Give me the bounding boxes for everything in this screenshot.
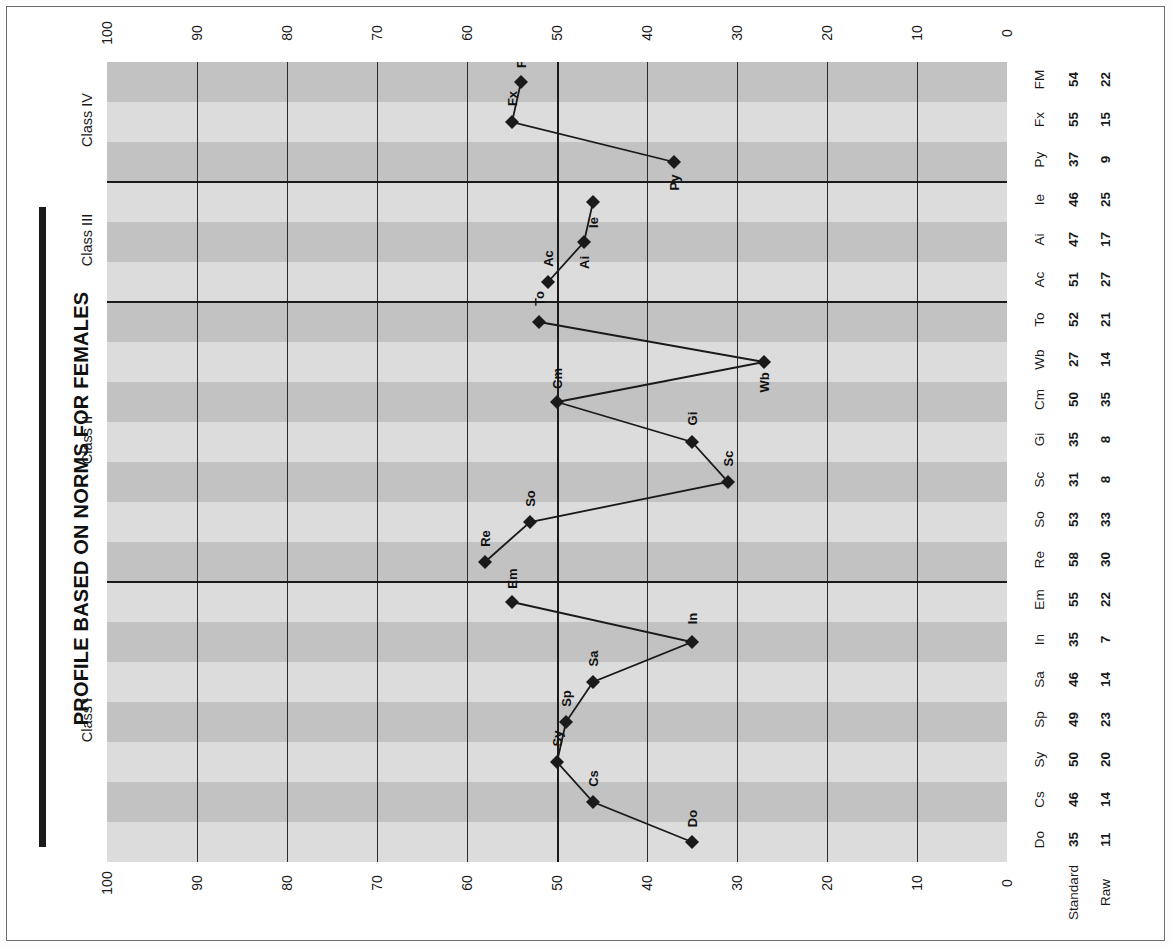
- point-label-So: So: [523, 479, 538, 519]
- scale-name-Fx: Fx: [1032, 100, 1047, 140]
- tick-10: 10: [909, 13, 925, 53]
- raw-score-Sp: 23: [1098, 700, 1113, 740]
- chart-frame: PROFILE BASED ON NORMS FOR FEMALES Class…: [6, 6, 1165, 941]
- scale-name-Ai: Ai: [1032, 220, 1047, 260]
- standard-score-Fx: 55: [1066, 100, 1081, 140]
- standard-score-To: 52: [1066, 300, 1081, 340]
- point-label-Cm: Cm: [550, 359, 565, 399]
- tick-60: 60: [459, 863, 475, 903]
- tick-50: 50: [549, 13, 565, 53]
- standard-score-In: 35: [1066, 620, 1081, 660]
- tick-30: 30: [729, 863, 745, 903]
- scale-name-Ac: Ac: [1032, 260, 1047, 300]
- point-label-Ac: Ac: [541, 239, 556, 279]
- tick-100: 100: [99, 13, 115, 53]
- title-block: PROFILE BASED ON NORMS FOR FEMALES: [21, 37, 77, 917]
- tick-10: 10: [909, 863, 925, 903]
- tick-20: 20: [819, 13, 835, 53]
- tick-50: 50: [549, 863, 565, 903]
- standard-score-FM: 54: [1066, 60, 1081, 100]
- point-label-Sa: Sa: [586, 639, 601, 679]
- raw-score-Wb: 14: [1098, 340, 1113, 380]
- raw-score-Py: 9: [1098, 140, 1113, 180]
- point-label-Sc: Sc: [721, 439, 736, 479]
- class-label-class-ii: Class II: [79, 385, 95, 495]
- scale-name-Sc: Sc: [1032, 460, 1047, 500]
- title-rule: [39, 207, 46, 847]
- standard-score-Sa: 46: [1066, 660, 1081, 700]
- point-label-Fx: Fx: [505, 79, 520, 119]
- scale-name-To: To: [1032, 300, 1047, 340]
- tick-40: 40: [639, 13, 655, 53]
- tick-80: 80: [279, 863, 295, 903]
- scale-name-In: In: [1032, 620, 1047, 660]
- tick-80: 80: [279, 13, 295, 53]
- chart-page: PROFILE BASED ON NORMS FOR FEMALES Class…: [0, 0, 1171, 947]
- scale-name-Do: Do: [1032, 820, 1047, 860]
- point-label-Gi: Gi: [685, 399, 700, 439]
- raw-score-Ai: 17: [1098, 220, 1113, 260]
- raw-score-Em: 22: [1098, 580, 1113, 620]
- class-label-class-iii: Class III: [79, 185, 95, 295]
- point-label-Em: Em: [505, 559, 520, 599]
- standard-score-Cm: 50: [1066, 380, 1081, 420]
- scale-name-Sa: Sa: [1032, 660, 1047, 700]
- class-label-class-iv: Class IV: [79, 65, 95, 175]
- raw-score-Sa: 14: [1098, 660, 1113, 700]
- point-label-Py: Py: [667, 163, 682, 203]
- raw-score-Re: 30: [1098, 540, 1113, 580]
- raw-score-Fx: 15: [1098, 100, 1113, 140]
- point-label-In: In: [685, 599, 700, 639]
- standard-score-Ai: 47: [1066, 220, 1081, 260]
- standard-score-Cs: 46: [1066, 780, 1081, 820]
- class-label-class-i: Class I: [79, 665, 95, 775]
- tick-70: 70: [369, 13, 385, 53]
- raw-score-To: 21: [1098, 300, 1113, 340]
- standard-score-Sp: 49: [1066, 700, 1081, 740]
- scale-name-Wb: Wb: [1032, 340, 1047, 380]
- scale-name-Py: Py: [1032, 140, 1047, 180]
- standard-score-So: 53: [1066, 500, 1081, 540]
- scale-name-Gi: Gi: [1032, 420, 1047, 460]
- point-label-To: To: [532, 279, 547, 319]
- tick-100: 100: [99, 863, 115, 903]
- raw-score-Sy: 20: [1098, 740, 1113, 780]
- tick-40: 40: [639, 863, 655, 903]
- raw-score-So: 33: [1098, 500, 1113, 540]
- tick-60: 60: [459, 13, 475, 53]
- point-label-Wb: Wb: [757, 363, 772, 403]
- raw-score-Gi: 8: [1098, 420, 1113, 460]
- standard-score-Em: 55: [1066, 580, 1081, 620]
- point-label-FM: FM: [514, 62, 529, 79]
- raw-score-Sc: 8: [1098, 460, 1113, 500]
- scale-name-Ie: Ie: [1032, 180, 1047, 220]
- scale-name-Re: Re: [1032, 540, 1047, 580]
- row-label-raw: Raw: [1098, 848, 1113, 938]
- standard-score-Py: 37: [1066, 140, 1081, 180]
- standard-score-Gi: 35: [1066, 420, 1081, 460]
- scale-name-Cs: Cs: [1032, 780, 1047, 820]
- raw-score-Cs: 14: [1098, 780, 1113, 820]
- raw-score-In: 7: [1098, 620, 1113, 660]
- raw-score-FM: 22: [1098, 60, 1113, 100]
- standard-score-Re: 58: [1066, 540, 1081, 580]
- point-label-Do: Do: [685, 799, 700, 839]
- scale-name-Sy: Sy: [1032, 740, 1047, 780]
- standard-score-Ie: 46: [1066, 180, 1081, 220]
- scale-name-Sp: Sp: [1032, 700, 1047, 740]
- tick-90: 90: [189, 863, 205, 903]
- tick-70: 70: [369, 863, 385, 903]
- plot-area: DoCsSySpSaInEmReSoScGiCmWbToAcAiIePyFxFM: [107, 62, 1007, 862]
- point-label-Ie: Ie: [586, 203, 601, 243]
- point-label-Sp: Sp: [559, 679, 574, 719]
- tick-20: 20: [819, 863, 835, 903]
- tick-90: 90: [189, 13, 205, 53]
- point-label-Cs: Cs: [586, 759, 601, 799]
- scale-name-So: So: [1032, 500, 1047, 540]
- tick-0: 0: [999, 863, 1015, 903]
- scale-name-Em: Em: [1032, 580, 1047, 620]
- point-label-Sy: Sy: [550, 719, 565, 759]
- raw-score-Ac: 27: [1098, 260, 1113, 300]
- scale-name-FM: FM: [1032, 60, 1047, 100]
- point-label-Ai: Ai: [577, 243, 592, 283]
